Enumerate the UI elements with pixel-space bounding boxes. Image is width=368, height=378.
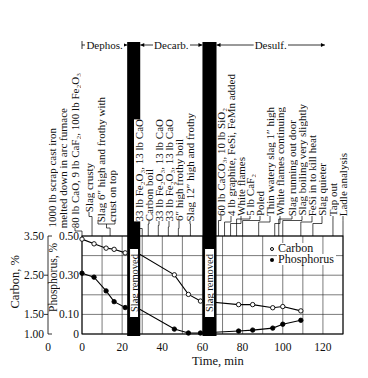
x-tick-label: 0	[79, 341, 85, 353]
open-circle-marker	[299, 309, 303, 313]
slag-removed-label: Slag removed	[204, 248, 215, 318]
open-circle-marker	[112, 247, 116, 251]
filled-circle-marker	[236, 329, 240, 333]
arrow-right-icon	[198, 43, 202, 47]
filled-circle-marker	[281, 322, 285, 326]
open-circle-marker	[92, 242, 96, 246]
filled-circle-icon	[270, 258, 274, 262]
annotation-leader	[301, 216, 312, 236]
carbon-tick-label: 3.50	[24, 230, 44, 242]
x-tick-label: 80	[237, 341, 249, 353]
arrow-right-icon	[123, 43, 127, 47]
open-circle-marker	[186, 292, 190, 296]
open-circle-marker	[281, 304, 285, 308]
phosphorus-tick-label: 0	[73, 328, 79, 340]
filled-circle-marker	[80, 271, 84, 275]
legend-item-phosphorus: Phosphorus	[270, 254, 336, 265]
open-circle-marker	[236, 302, 240, 306]
annotation-leader	[168, 221, 169, 236]
annotation-text: Slag quieter	[317, 163, 328, 216]
phase-label-decarb: Decarb.	[153, 39, 190, 51]
filled-circle-marker	[123, 305, 127, 309]
phosphorus-tick-label: 0.10	[59, 308, 79, 320]
y-axis-title-phosphorus: Phosphorus, %	[47, 243, 59, 312]
x-tick-label: 100	[274, 341, 292, 353]
filled-circle-marker	[250, 328, 254, 332]
annotation-leader	[107, 224, 111, 236]
filled-circle-marker	[299, 318, 303, 322]
open-circle-marker	[250, 302, 254, 306]
series-lines	[82, 239, 301, 333]
x-tick-label: 60	[197, 341, 209, 353]
open-circle-marker	[80, 237, 84, 241]
annotation-leader	[158, 221, 159, 236]
x-axis-tick-labels: 0204060801001200	[45, 341, 332, 353]
filled-circle-marker	[271, 326, 275, 330]
arrow-left-icon	[140, 43, 144, 47]
annotation-text: crust on top	[107, 170, 118, 222]
phase-label-dephos: Dephos.	[85, 39, 123, 51]
annotation-text: White flames continuing	[275, 107, 286, 216]
filled-circle-marker	[92, 275, 96, 279]
annotation-leader	[225, 216, 231, 236]
open-circle-marker	[198, 299, 202, 303]
carbon-tick-label: 1.00	[24, 328, 44, 340]
carbon-axis-zero-label: 0	[45, 341, 51, 353]
annotation-text: Ladle analysis	[338, 153, 349, 216]
annotation-text: Slag 12″ high and frothy	[185, 113, 196, 221]
carbon-tick-label: 2.50	[24, 269, 44, 281]
filled-circle-marker	[104, 289, 108, 293]
annotation-text: Slag crusty	[84, 163, 95, 212]
annotation-text: 1000 lb scrap cast iron	[47, 128, 58, 228]
filled-circle-marker	[186, 331, 190, 335]
legend: Carbon Phosphorus	[270, 243, 336, 265]
open-circle-marker	[123, 251, 127, 255]
x-tick-label: 20	[116, 341, 128, 353]
open-circle-marker	[104, 246, 108, 250]
annotation-leader	[237, 216, 250, 236]
phase-label-desulf: Desulf.	[254, 39, 288, 51]
x-tick-label: 40	[157, 341, 169, 353]
annotation-leader	[89, 212, 92, 236]
open-circle-marker	[271, 306, 275, 310]
open-circle-marker	[172, 273, 176, 277]
annotation-leader	[178, 221, 179, 236]
filled-circle-marker	[172, 327, 176, 331]
x-axis-title: Time, min	[192, 354, 244, 369]
annotation-leader	[148, 221, 149, 236]
phosphorus-tick-label: 0.30	[59, 269, 79, 281]
filled-circle-marker	[198, 331, 202, 335]
arrow-right-icon	[321, 43, 325, 47]
annotation-leader	[219, 216, 221, 236]
phosphorus-axis: 0.500.300.100	[59, 230, 79, 340]
annotation-text: 6″ high frothy boil	[174, 139, 185, 221]
phosphorus-tick-label: 0.50	[59, 230, 79, 242]
slag-removed-label: Slag removed	[129, 248, 139, 318]
annotation-text: 80 lb CaO, 9 lb CaF₂, 100 lb Fe₂O₃	[70, 73, 81, 228]
annotation-text: Slag 6″ high and frothy with	[96, 97, 107, 222]
annotation-leader	[279, 216, 292, 236]
x-tick-label: 120	[314, 341, 332, 353]
arrow-left-icon	[217, 43, 221, 47]
open-circle-icon	[270, 247, 274, 251]
y-axis-title-carbon: Carbon, %	[8, 255, 22, 308]
annotation-leader	[313, 216, 322, 236]
annotation-leader	[259, 216, 270, 236]
filled-circle-marker	[112, 299, 116, 303]
legend-label: Phosphorus	[277, 254, 336, 265]
figure: 02040608010012000.500.300.1003.502.501.5…	[0, 0, 368, 378]
annotation-text: melted down in arc furnace	[58, 108, 69, 228]
carbon-tick-label: 1.50	[24, 308, 44, 320]
